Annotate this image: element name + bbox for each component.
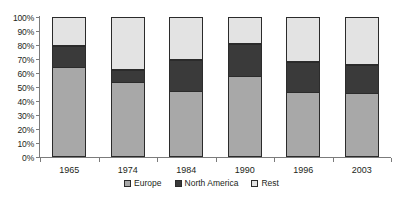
y-axis-tick: 60%	[18, 68, 40, 79]
plot-area	[40, 17, 391, 157]
y-axis-tick-label: 60%	[18, 69, 34, 80]
bar-segment-rest[interactable]	[228, 17, 262, 44]
y-axis-tick-label: 10%	[18, 139, 34, 150]
legend-swatch-icon	[124, 180, 131, 187]
bar-stack	[345, 17, 379, 157]
bar-segment-rest[interactable]	[286, 17, 320, 62]
bar-stack	[286, 17, 320, 157]
y-axis-tick-label: 50%	[18, 83, 34, 94]
bar-stack	[111, 17, 145, 157]
bar-group[interactable]	[286, 17, 320, 157]
legend-swatch-icon	[251, 180, 258, 187]
bar-segment-europe[interactable]	[169, 91, 203, 157]
bar-stack	[169, 17, 203, 157]
bar-segment-rest[interactable]	[111, 17, 145, 70]
y-axis: 100%90%80%70%60%50%40%30%20%10%0%	[0, 0, 40, 199]
bar-segment-europe[interactable]	[345, 93, 379, 157]
y-axis-tick-label: 40%	[18, 97, 34, 108]
bar-segment-north-america[interactable]	[52, 46, 86, 67]
bar-group[interactable]	[52, 17, 86, 157]
bar-segment-europe[interactable]	[52, 67, 86, 157]
x-axis-label: 1965	[39, 165, 99, 175]
legend-label: Europe	[134, 179, 161, 188]
bar-segment-europe[interactable]	[111, 82, 145, 157]
bar-segment-rest[interactable]	[52, 17, 86, 46]
x-axis-label: 1974	[98, 165, 158, 175]
x-axis-tick-mark	[391, 158, 392, 162]
chart-legend: EuropeNorth AmericaRest	[0, 179, 403, 188]
legend-item-rest[interactable]: Rest	[251, 179, 278, 188]
x-axis-label: 1996	[273, 165, 333, 175]
stacked-bar-chart: 100%90%80%70%60%50%40%30%20%10%0% 196519…	[0, 0, 403, 199]
y-axis-tick-label: 80%	[18, 41, 34, 52]
y-axis-tick: 90%	[18, 26, 40, 37]
bar-segment-rest[interactable]	[345, 17, 379, 65]
y-axis-tick: 20%	[18, 124, 40, 135]
x-axis-tick-mark	[216, 158, 217, 162]
legend-item-europe[interactable]: Europe	[124, 179, 161, 188]
bar-group[interactable]	[169, 17, 203, 157]
bar-segment-north-america[interactable]	[228, 44, 262, 76]
y-axis-tick: 0%	[22, 152, 40, 163]
y-axis-tick-label: 20%	[18, 125, 34, 136]
bar-group[interactable]	[228, 17, 262, 157]
y-axis-tick: 10%	[18, 138, 40, 149]
legend-swatch-icon	[175, 180, 182, 187]
y-axis-tick: 50%	[18, 82, 40, 93]
x-axis-tick-mark	[274, 158, 275, 162]
y-axis-tick: 80%	[18, 40, 40, 51]
bar-group[interactable]	[345, 17, 379, 157]
x-axis-tick-mark	[40, 158, 41, 162]
bar-segment-north-america[interactable]	[111, 70, 145, 82]
legend-label: North America	[185, 179, 239, 188]
x-axis-label: 1984	[156, 165, 216, 175]
y-axis-tick-label: 30%	[18, 111, 34, 122]
y-axis-tick-label: 100%	[13, 13, 34, 24]
y-axis-tick-label: 70%	[18, 55, 34, 66]
bar-segment-north-america[interactable]	[345, 65, 379, 92]
x-axis-tick-mark	[157, 158, 158, 162]
y-axis-tick: 70%	[18, 54, 40, 65]
bar-segment-rest[interactable]	[169, 17, 203, 60]
bar-segment-north-america[interactable]	[286, 62, 320, 92]
y-axis-tick: 40%	[18, 96, 40, 107]
y-axis-tick-label: 90%	[18, 27, 34, 38]
x-axis-tick-mark	[99, 158, 100, 162]
bar-stack	[228, 17, 262, 157]
bar-segment-north-america[interactable]	[169, 60, 203, 91]
bar-segment-europe[interactable]	[286, 92, 320, 157]
y-axis-tick-label: 0%	[22, 153, 34, 164]
legend-item-north-america[interactable]: North America	[175, 179, 239, 188]
legend-label: Rest	[261, 179, 278, 188]
x-axis-label: 2003	[332, 165, 392, 175]
x-axis-tick-mark	[333, 158, 334, 162]
bar-group[interactable]	[111, 17, 145, 157]
bar-segment-europe[interactable]	[228, 76, 262, 157]
y-axis-tick: 100%	[13, 12, 40, 23]
bar-stack	[52, 17, 86, 157]
x-axis-label: 1990	[215, 165, 275, 175]
y-axis-tick: 30%	[18, 110, 40, 121]
